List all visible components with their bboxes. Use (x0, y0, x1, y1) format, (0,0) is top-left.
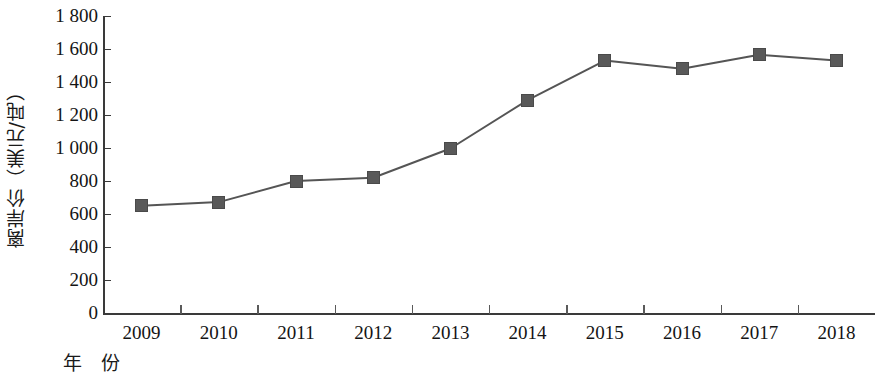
data-point-marker (521, 94, 534, 107)
y-axis-tick-label: 1 600 (32, 39, 98, 58)
y-axis-tick-label: 400 (32, 237, 98, 256)
x-axis-tick-label: 2014 (488, 322, 568, 344)
line-chart: 离岸价（美元/吨） 02004006008001 0001 2001 4001 … (0, 0, 883, 378)
data-point-marker (676, 62, 689, 75)
x-axis-tick-labels: 2009201020112012201320142015201620172018 (103, 322, 875, 348)
plot-area (103, 16, 875, 313)
data-point-marker (753, 48, 766, 61)
x-axis-title-label: 年 份 (63, 352, 125, 374)
data-point-marker (830, 54, 843, 67)
x-axis-tick-label: 2015 (565, 322, 645, 344)
x-axis-title: 年 份 (0, 348, 883, 375)
y-axis-tick-label: 1 000 (32, 138, 98, 157)
y-axis-title: 离岸价（美元/吨） (0, 0, 30, 330)
y-axis-tick-label: 1 800 (32, 6, 98, 25)
data-point-marker (290, 175, 303, 188)
data-point-marker (444, 142, 457, 155)
y-axis-tick-label: 800 (32, 171, 98, 190)
y-axis-tick-label: 1 200 (32, 105, 98, 124)
y-axis-tick-labels: 02004006008001 0001 2001 4001 6001 800 (30, 0, 98, 378)
y-axis-tick-label: 600 (32, 204, 98, 223)
x-axis-tick-label: 2009 (102, 322, 182, 344)
x-axis-tick-label: 2010 (179, 322, 259, 344)
data-point-marker (212, 196, 225, 209)
data-point-marker (367, 171, 380, 184)
x-axis-tick-label: 2013 (410, 322, 490, 344)
y-axis-tick-label: 200 (32, 270, 98, 289)
x-axis-tick-label: 2017 (719, 322, 799, 344)
data-point-marker (598, 54, 611, 67)
y-axis-title-label: 离岸价（美元/吨） (2, 81, 29, 248)
y-axis-tick-mark (103, 313, 111, 314)
data-point-marker (135, 199, 148, 212)
x-axis-tick-label: 2012 (333, 322, 413, 344)
x-axis-tick-label: 2018 (796, 322, 876, 344)
x-axis-tick-label: 2016 (642, 322, 722, 344)
y-axis-tick-label: 1 400 (32, 72, 98, 91)
x-axis-tick-label: 2011 (256, 322, 336, 344)
y-axis-tick-label: 0 (32, 303, 98, 322)
